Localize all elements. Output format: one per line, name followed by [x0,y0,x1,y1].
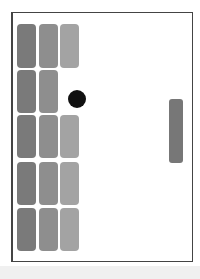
brick [17,115,36,158]
brick [17,208,36,251]
brick [60,115,79,158]
brick [39,162,58,205]
brick [60,24,79,68]
ball [68,90,86,108]
brick [39,24,58,68]
paddle[interactable] [169,99,183,163]
brick [17,162,36,205]
bottom-strip [0,266,200,279]
brick [17,24,36,68]
brick [60,208,79,251]
brick [17,70,36,113]
brick [39,208,58,251]
brick [60,162,79,205]
brick [39,115,58,158]
brick [39,70,58,113]
